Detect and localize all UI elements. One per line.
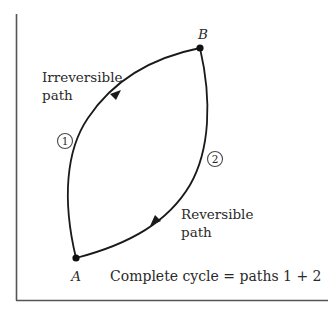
path-1-number-marker: 1 xyxy=(58,134,73,149)
point-a-label: A xyxy=(69,268,81,284)
reversible-label-line1: Reversible xyxy=(181,206,253,222)
path-2-number-marker: 2 xyxy=(208,152,223,167)
reversible-label-line2: path xyxy=(181,224,212,240)
irreversible-label-line2: path xyxy=(42,87,73,103)
cycle-diagram: B A 1 2 Irreversible path Reversible pat… xyxy=(0,0,332,314)
point-a xyxy=(72,254,79,261)
point-b-label: B xyxy=(197,26,208,42)
axes xyxy=(16,14,328,301)
number-2-text: 2 xyxy=(212,153,219,165)
point-b xyxy=(196,44,203,51)
arrow-path-2-icon xyxy=(150,215,161,226)
irreversible-label-line1: Irreversible xyxy=(42,69,123,85)
cycle-caption: Complete cycle = paths 1 + 2 xyxy=(110,268,322,284)
number-1-text: 1 xyxy=(62,135,69,147)
